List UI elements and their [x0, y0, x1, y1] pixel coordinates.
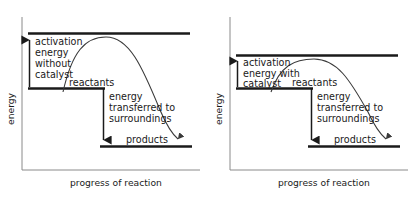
- activation-energy-line-4: catalyst: [35, 69, 73, 80]
- energy-transferred-line-2: transferred to: [109, 102, 175, 113]
- activation-energy-line-3: without: [35, 58, 71, 69]
- energy-transferred-line-3: surroundings: [317, 113, 380, 124]
- panel-without-catalyst: activation energy without catalyst react…: [0, 0, 208, 198]
- activation-energy-line-1: activation: [243, 57, 291, 68]
- products-label-right: products: [334, 134, 376, 145]
- x-axis-label-right: progress of reaction: [278, 177, 370, 188]
- activation-energy-label-left: activation energy without catalyst: [35, 36, 83, 80]
- energy-transferred-line-1: energy: [109, 91, 143, 102]
- energy-profile-figure: activation energy without catalyst react…: [0, 0, 416, 198]
- y-axis-label-left: energy: [5, 92, 16, 125]
- x-axis-label-left: progress of reaction: [70, 177, 162, 188]
- activation-energy-line-2: energy: [35, 47, 69, 58]
- panel-with-catalyst: activation energy with catalyst reactant…: [208, 0, 416, 198]
- activation-energy-line-1: activation: [35, 36, 83, 47]
- products-label-left: products: [126, 134, 168, 145]
- activation-energy-line-3: catalyst: [243, 78, 281, 89]
- energy-transferred-line-3: surroundings: [109, 113, 172, 124]
- energy-transferred-line-2: transferred to: [317, 102, 383, 113]
- reactants-label-right: reactants: [292, 77, 337, 88]
- reactants-label-left: reactants: [69, 77, 114, 88]
- energy-transferred-label-left: energy transferred to surroundings: [109, 91, 175, 124]
- y-axis-label-right: energy: [213, 92, 224, 125]
- energy-transferred-label-right: energy transferred to surroundings: [317, 91, 383, 124]
- energy-transferred-line-1: energy: [317, 91, 351, 102]
